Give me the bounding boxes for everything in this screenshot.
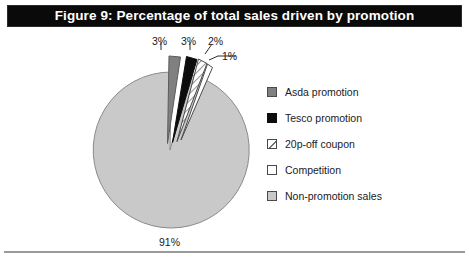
slice-label-20p-off-coupon: 2%	[208, 36, 223, 47]
bottom-divider	[4, 251, 465, 253]
legend-label-asda-promotion: Asda promotion	[285, 87, 359, 98]
legend-swatch-icon-asda-promotion	[267, 87, 277, 97]
legend-label-competition: Competition	[285, 165, 341, 176]
legend-swatch-icon-competition	[267, 165, 277, 175]
slice-label-tesco-promotion: 3%	[181, 36, 196, 47]
legend-label-non-promotion-sales: Non-promotion sales	[285, 191, 382, 202]
legend-swatch-icon-tesco-promotion	[267, 113, 277, 123]
chart-legend: Asda promotion Tesco promotion 20p-off c…	[267, 86, 457, 216]
legend-item-competition: Competition	[267, 164, 457, 176]
figure-container: Figure 9: Percentage of total sales driv…	[0, 0, 469, 261]
slice-label-competition: 1%	[222, 51, 237, 62]
legend-swatch-icon-non-promotion-sales	[267, 191, 277, 201]
legend-item-asda-promotion: Asda promotion	[267, 86, 457, 98]
figure-title-bar: Figure 9: Percentage of total sales driv…	[7, 5, 462, 27]
legend-label-tesco-promotion: Tesco promotion	[285, 113, 362, 124]
legend-swatch-icon-20p-off-coupon	[267, 139, 277, 149]
slice-label-non-promotion-sales: 91%	[159, 237, 180, 248]
legend-label-20p-off-coupon: 20p-off coupon	[285, 139, 355, 150]
legend-item-20p-off-coupon: 20p-off coupon	[267, 138, 457, 150]
legend-item-non-promotion-sales: Non-promotion sales	[267, 190, 457, 202]
legend-item-tesco-promotion: Tesco promotion	[267, 112, 457, 124]
slice-label-asda-promotion: 3%	[152, 36, 167, 47]
figure-title: Figure 9: Percentage of total sales driv…	[55, 9, 415, 23]
